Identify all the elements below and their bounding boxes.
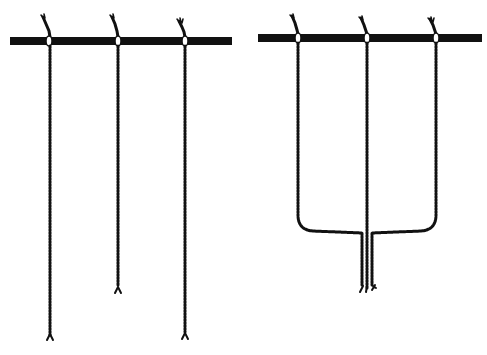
rope-illustration — [0, 0, 487, 355]
cord-1 — [41, 14, 53, 340]
cord-right-outer — [372, 17, 439, 285]
right-panel — [258, 14, 482, 292]
cord-left-outer — [290, 14, 362, 285]
left-panel — [10, 14, 232, 340]
cord-3 — [177, 18, 188, 339]
cord-2 — [110, 14, 121, 293]
